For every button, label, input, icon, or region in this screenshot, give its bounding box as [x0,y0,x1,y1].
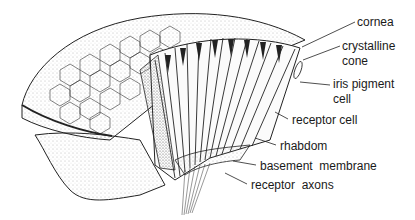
label-basement-membrane: basement membrane [260,160,377,173]
label-crystalline: crystalline [342,40,395,53]
label-cone: cone [342,55,368,68]
label-iris-cell: cell [333,93,351,106]
label-cornea: cornea [357,16,394,29]
label-iris-pigment: iris pigment [333,78,394,91]
eye-shell [35,133,165,200]
label-receptor-axons: receptor axons [251,179,334,192]
compound-eye-diagram [0,0,415,220]
label-receptor-cell: receptor cell [292,114,357,127]
label-rhabdom: rhabdom [280,140,327,153]
